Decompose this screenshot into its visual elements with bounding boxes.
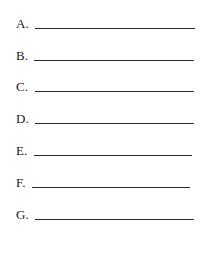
blank-line	[35, 91, 194, 92]
blank-line	[34, 60, 194, 61]
answer-row-e: E.	[16, 143, 216, 159]
item-label: B.	[16, 48, 28, 64]
item-label: A.	[16, 16, 29, 32]
blank-line	[35, 123, 194, 124]
answer-row-f: F.	[16, 175, 216, 191]
answer-row-g: G.	[16, 207, 216, 223]
blank-line	[32, 187, 190, 188]
item-label: G.	[16, 207, 29, 223]
answer-row-a: A.	[16, 16, 216, 32]
item-label: D.	[16, 111, 29, 127]
item-label: F.	[16, 175, 25, 191]
answer-row-c: C.	[16, 79, 216, 95]
blank-line	[35, 28, 195, 29]
item-label: C.	[16, 79, 28, 95]
blank-line	[35, 219, 194, 220]
answer-row-d: D.	[16, 111, 216, 127]
blank-line	[34, 155, 192, 156]
item-label: E.	[16, 143, 27, 159]
answer-row-b: B.	[16, 48, 216, 64]
